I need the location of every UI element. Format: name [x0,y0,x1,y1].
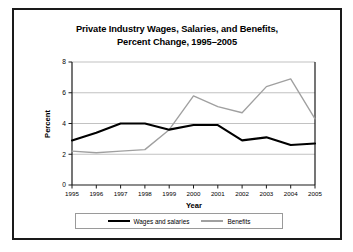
x-tick-label: 2004 [284,190,298,197]
legend-label-benefits: Benefits [227,218,250,225]
x-tick-label: 2002 [235,190,249,197]
x-tick-label: 1995 [65,190,79,197]
legend-entry-benefits: Benefits [201,218,250,225]
plot-area: 02468 1995199619971998199920002001200220… [14,10,344,242]
chart-legend: Wages and salaries Benefits [75,213,283,229]
chart-figure: Private Industry Wages, Salaries, and Be… [12,8,342,240]
x-tick-label: 1998 [138,190,152,197]
y-tick-label: 0 [62,181,66,188]
x-tick-label: 1997 [114,190,128,197]
y-axis-label: Percent [43,110,52,138]
x-tick-label: 2005 [308,190,322,197]
x-tick-label: 2001 [211,190,225,197]
line-chart-svg: 02468 1995199619971998199920002001200220… [14,10,344,242]
y-tick-label: 6 [62,89,66,96]
x-tick-labels-group: 1995199619971998199920002001200220032004… [65,190,322,197]
y-tick-labels-group: 02468 [62,58,66,188]
x-tick-label: 2003 [260,190,274,197]
x-tick-label: 2000 [187,190,201,197]
y-tick-label: 2 [62,151,66,158]
legend-swatch-wages-icon [108,220,130,222]
series-line-wages [72,124,315,146]
legend-swatch-benefits-icon [201,220,223,221]
legend-entry-wages: Wages and salaries [108,218,190,225]
x-axis-label: Year [186,201,202,210]
x-tick-label: 1996 [89,190,103,197]
legend-label-wages: Wages and salaries [134,218,190,225]
x-tick-label: 1999 [162,190,176,197]
y-tick-label: 8 [62,58,66,65]
y-tick-label: 4 [62,120,66,127]
